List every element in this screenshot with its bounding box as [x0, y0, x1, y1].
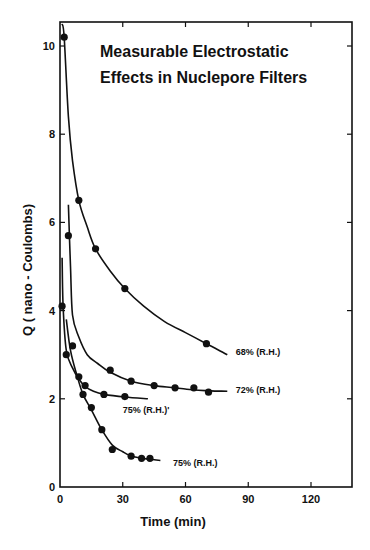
x-tick-label: 30 [117, 493, 129, 505]
data-point [121, 285, 128, 292]
series-label-2: 75% (R.H.)' [123, 405, 170, 415]
data-point [88, 404, 95, 411]
data-point [92, 245, 99, 252]
plot-border [60, 22, 352, 487]
x-tick-label: 0 [57, 493, 63, 505]
data-point [79, 391, 86, 398]
y-tick-label: 2 [49, 393, 55, 405]
data-point [205, 389, 212, 396]
y-axis-title: Q ( nano - Coulombs) [20, 204, 35, 336]
axis-ticks: 03060901200246810 [43, 22, 352, 505]
y-tick-label: 4 [49, 305, 56, 317]
chart-canvas: 03060901200246810 68% (R.H.)72% (R.H.)75… [0, 0, 370, 550]
series-curve-1 [68, 205, 227, 391]
data-point [151, 382, 158, 389]
data-point [128, 378, 135, 385]
data-point [61, 34, 68, 41]
data-point [82, 382, 89, 389]
data-point [121, 393, 128, 400]
data-point [75, 373, 82, 380]
data-point [107, 367, 114, 374]
data-point [138, 455, 145, 462]
data-point [100, 391, 107, 398]
plot-frame [60, 22, 352, 487]
y-tick-label: 8 [49, 128, 55, 140]
data-point [69, 342, 76, 349]
data-point [203, 340, 210, 347]
data-point [190, 384, 197, 391]
chart-title-line-2: Effects in Nuclepore Filters [100, 69, 307, 86]
data-point [63, 351, 70, 358]
x-tick-label: 120 [302, 493, 320, 505]
series-curves [62, 24, 227, 461]
x-axis-title: Time (min) [140, 514, 206, 529]
data-point [65, 232, 72, 239]
series-label-1: 72% (R.H.) [236, 385, 281, 395]
series-label-3: 75% (R.H.) [173, 458, 218, 468]
data-point [171, 384, 178, 391]
data-point [128, 453, 135, 460]
x-tick-label: 60 [179, 493, 191, 505]
y-tick-label: 10 [43, 40, 55, 52]
series-label-0: 68% (R.H.) [236, 347, 281, 357]
data-point [98, 426, 105, 433]
data-point [75, 197, 82, 204]
data-point [109, 446, 116, 453]
y-tick-label: 0 [49, 481, 55, 493]
data-point [146, 455, 153, 462]
data-point [58, 303, 65, 310]
series-labels: 68% (R.H.)72% (R.H.)75% (R.H.)'75% (R.H.… [123, 347, 280, 467]
x-tick-label: 90 [242, 493, 254, 505]
y-tick-label: 6 [49, 216, 55, 228]
chart-title-line-1: Measurable Electrostatic [100, 43, 289, 60]
